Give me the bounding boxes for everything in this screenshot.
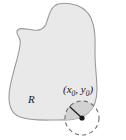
point-label-close-paren: ) bbox=[88, 83, 93, 96]
figure-canvas: R (x0, y0) bbox=[0, 0, 126, 140]
boundary-point-dot bbox=[79, 115, 84, 120]
region-neighborhood-figure: R (x0, y0) bbox=[0, 0, 126, 140]
region-label: R bbox=[27, 93, 35, 105]
